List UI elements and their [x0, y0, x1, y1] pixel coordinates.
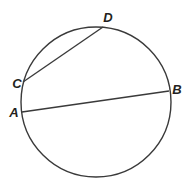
label-a: A: [8, 105, 18, 120]
label-c: C: [12, 76, 22, 91]
chord-ab: [22, 91, 169, 112]
label-d: D: [103, 10, 113, 25]
circle-diagram: D C A B: [0, 0, 187, 191]
label-b: B: [172, 82, 181, 97]
